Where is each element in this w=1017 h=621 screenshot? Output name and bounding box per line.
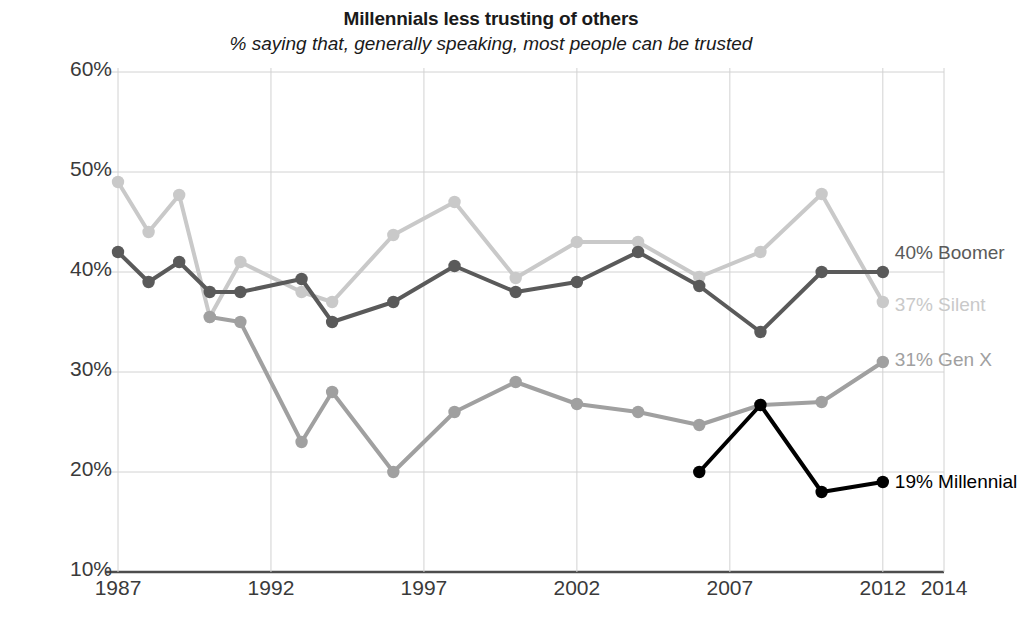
data-point (632, 246, 644, 258)
y-axis-tick-label: 30% (40, 357, 112, 381)
data-point (754, 246, 766, 258)
data-point (448, 406, 460, 418)
x-axis-tick-label: 1987 (73, 576, 163, 600)
data-point (693, 280, 705, 292)
data-point (877, 296, 889, 308)
series-label-gen-x: 31% Gen X (895, 349, 992, 371)
y-axis-tick-label: 50% (40, 157, 112, 181)
data-point (815, 396, 827, 408)
data-point (693, 419, 705, 431)
data-point (234, 286, 246, 298)
y-axis-tick-label: 20% (40, 457, 112, 481)
series-gen-x (204, 311, 889, 478)
series-label-silent: 37% Silent (895, 294, 986, 316)
data-point (815, 188, 827, 200)
series-label-boomer: 40% Boomer (895, 242, 1005, 264)
data-point (234, 256, 246, 268)
data-point (387, 229, 399, 241)
data-point (142, 276, 154, 288)
data-point (754, 399, 766, 411)
data-point (510, 286, 522, 298)
data-point (632, 406, 644, 418)
x-axis-tick-label: 2014 (899, 576, 989, 600)
series-silent (112, 176, 889, 323)
series-millennial (693, 399, 889, 498)
data-point (326, 386, 338, 398)
data-point (387, 466, 399, 478)
data-point (173, 189, 185, 201)
x-axis-tick-label: 2002 (532, 576, 622, 600)
data-point (234, 316, 246, 328)
data-point (173, 256, 185, 268)
data-point (295, 273, 307, 285)
data-point (571, 236, 583, 248)
data-point (877, 266, 889, 278)
data-point (295, 436, 307, 448)
data-point (112, 246, 124, 258)
data-point (815, 486, 827, 498)
x-axis-tick-label: 1992 (226, 576, 316, 600)
data-point (112, 176, 124, 188)
data-point (204, 286, 216, 298)
data-point (571, 276, 583, 288)
data-point (204, 311, 216, 323)
x-axis-tick-label: 2007 (685, 576, 775, 600)
data-point (754, 326, 766, 338)
data-point (815, 266, 827, 278)
data-point (877, 476, 889, 488)
data-point (142, 226, 154, 238)
series-line (210, 317, 883, 472)
series-line (118, 182, 883, 317)
data-point (571, 398, 583, 410)
data-point (387, 296, 399, 308)
data-point (877, 356, 889, 368)
data-point (326, 296, 338, 308)
data-point (448, 196, 460, 208)
y-axis-tick-label: 40% (40, 257, 112, 281)
data-point (510, 272, 522, 284)
data-point (510, 376, 522, 388)
x-axis-tick-label: 1997 (379, 576, 469, 600)
y-axis-tick-label: 60% (40, 57, 112, 81)
data-point (693, 466, 705, 478)
data-point (326, 316, 338, 328)
series-label-millennial: 19% Millennial (895, 471, 1017, 493)
data-point (448, 260, 460, 272)
